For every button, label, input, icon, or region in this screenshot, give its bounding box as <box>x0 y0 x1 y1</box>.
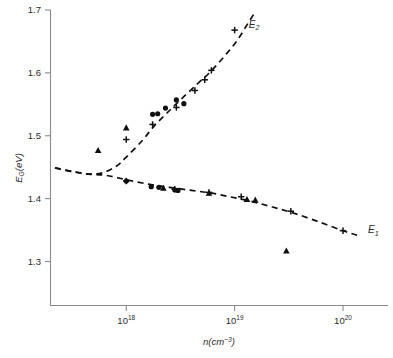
y-tick-label: 1.7 <box>28 4 41 15</box>
data-point-triangle <box>123 124 130 130</box>
x-tick-label: 1018 <box>117 314 135 326</box>
fit-curve-e1 <box>55 168 361 237</box>
data-point-circle <box>163 105 168 110</box>
axes-group <box>50 10 388 306</box>
x-axis-title-close: ) <box>231 336 235 347</box>
data-point-triangle <box>283 248 290 254</box>
y-tick-label: 1.5 <box>28 130 41 141</box>
data-point-circle <box>149 184 154 189</box>
x-tick-label: 1019 <box>226 314 244 326</box>
scatter-plot: 1.71.61.51.41.3 101810191020 E2E1 EG(eV)… <box>0 0 393 358</box>
curve-label-e2: E2 <box>249 19 260 32</box>
data-point-circle <box>181 101 186 106</box>
data-point-circle <box>150 112 155 117</box>
data-point-circle <box>155 111 160 116</box>
data-point-circle <box>174 97 179 102</box>
svg-text:EG(eV): EG(eV) <box>13 153 25 183</box>
data-point-circle <box>156 185 161 190</box>
data-point-triangle <box>252 197 259 203</box>
curve-annotations: E2E1 <box>249 19 379 237</box>
data-point-plus <box>340 227 346 233</box>
y-tick-label: 1.4 <box>28 193 41 204</box>
y-axis-title-unit: (eV) <box>13 153 24 171</box>
data-point-plus <box>231 27 237 33</box>
y-axis-ticks: 1.71.61.51.41.3 <box>28 4 51 266</box>
series-circle <box>150 97 186 117</box>
y-tick-label: 1.3 <box>28 256 41 267</box>
figure-container: 1.71.61.51.41.3 101810191020 E2E1 EG(eV)… <box>0 0 393 358</box>
fit-curve-e2 <box>55 12 255 174</box>
x-axis-title: n(cm−3) <box>203 336 235 347</box>
y-tick-label: 1.6 <box>28 67 41 78</box>
y-axis-title: EG(eV) <box>13 153 25 183</box>
data-point-triangle <box>95 147 102 153</box>
series-triangle <box>95 124 130 153</box>
fit-curves <box>55 12 361 236</box>
series-plus <box>123 27 238 143</box>
data-point-plus <box>123 178 129 184</box>
data-point-plus <box>202 77 208 83</box>
svg-text:n(cm−3): n(cm−3) <box>203 336 235 347</box>
x-axis-title-base: n(cm <box>203 336 224 347</box>
data-point-plus <box>123 136 129 142</box>
x-tick-label: 1020 <box>334 314 352 326</box>
x-axis-ticks: 101810191020 <box>117 306 352 327</box>
curve-label-e1: E1 <box>368 224 379 237</box>
data-point-plus <box>149 121 155 127</box>
